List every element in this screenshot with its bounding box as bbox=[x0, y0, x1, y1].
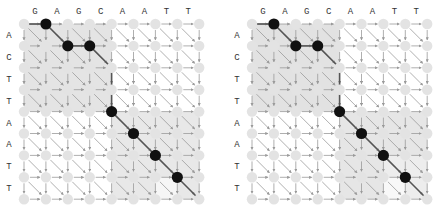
top-sequence-letter: A bbox=[370, 7, 376, 17]
grid-node bbox=[291, 194, 301, 204]
top-sequence-letter: A bbox=[282, 7, 288, 17]
grid-node bbox=[128, 63, 138, 73]
grid-node bbox=[63, 150, 73, 160]
grid-node bbox=[172, 106, 182, 116]
grid-node bbox=[400, 19, 410, 29]
alignment-graph-right: GAGCAATTACTTAATT bbox=[228, 0, 439, 219]
grid-node bbox=[269, 172, 279, 182]
grid-node bbox=[194, 85, 204, 95]
path-node bbox=[150, 150, 161, 161]
grid-node bbox=[334, 19, 344, 29]
grid-node bbox=[150, 128, 160, 138]
grid-node bbox=[194, 63, 204, 73]
grid-node bbox=[334, 128, 344, 138]
grid-node bbox=[63, 19, 73, 29]
grid-node bbox=[41, 85, 51, 95]
grid-node bbox=[63, 63, 73, 73]
grid-node bbox=[150, 85, 160, 95]
path-node bbox=[378, 150, 389, 161]
grid-node bbox=[334, 150, 344, 160]
grid-node bbox=[19, 85, 29, 95]
grid-node bbox=[19, 194, 29, 204]
grid-node bbox=[378, 85, 388, 95]
top-sequence-letter: A bbox=[142, 7, 148, 17]
path-node bbox=[62, 40, 73, 51]
path-node bbox=[312, 40, 323, 51]
grid-node bbox=[422, 41, 432, 51]
top-sequence-letter: A bbox=[54, 7, 60, 17]
grid-node bbox=[356, 172, 366, 182]
grid-node bbox=[85, 128, 95, 138]
grid-node bbox=[378, 172, 388, 182]
grid-node bbox=[172, 150, 182, 160]
grid-node bbox=[291, 172, 301, 182]
grid-node bbox=[378, 106, 388, 116]
grid-node bbox=[106, 63, 116, 73]
grid-node bbox=[19, 63, 29, 73]
grid-node bbox=[63, 194, 73, 204]
grid-node bbox=[313, 106, 323, 116]
grid-node bbox=[422, 194, 432, 204]
grid-node bbox=[41, 172, 51, 182]
grid-node bbox=[85, 172, 95, 182]
grid-node bbox=[334, 63, 344, 73]
grid-node bbox=[400, 63, 410, 73]
left-sequence-letter: A bbox=[234, 140, 240, 150]
grid-node bbox=[106, 172, 116, 182]
alignment-grid-right: GAGCAATTACTTAATT bbox=[228, 0, 439, 219]
grid-node bbox=[85, 85, 95, 95]
grid-node bbox=[269, 150, 279, 160]
grid-node bbox=[172, 19, 182, 29]
top-sequence-letter: T bbox=[392, 7, 398, 17]
grid-node bbox=[19, 150, 29, 160]
grid-node bbox=[400, 194, 410, 204]
top-sequence-letter: C bbox=[98, 7, 104, 17]
left-sequence-letter: A bbox=[234, 31, 240, 41]
grid-node bbox=[150, 19, 160, 29]
grid-node bbox=[172, 41, 182, 51]
grid-node bbox=[172, 194, 182, 204]
grid-node bbox=[400, 106, 410, 116]
grid-node bbox=[247, 194, 257, 204]
path-node bbox=[84, 40, 95, 51]
grid-node bbox=[269, 128, 279, 138]
grid-node bbox=[291, 128, 301, 138]
grid-node bbox=[400, 128, 410, 138]
grid-node bbox=[334, 41, 344, 51]
top-sequence-letter: A bbox=[120, 7, 126, 17]
grid-node bbox=[19, 172, 29, 182]
grid-node bbox=[19, 41, 29, 51]
left-sequence-letter: T bbox=[234, 75, 240, 85]
grid-node bbox=[172, 63, 182, 73]
path-node bbox=[400, 172, 411, 183]
grid-node bbox=[422, 172, 432, 182]
grid-node bbox=[313, 128, 323, 138]
grid-node bbox=[41, 150, 51, 160]
grid-node bbox=[247, 106, 257, 116]
grid-node bbox=[422, 63, 432, 73]
grid-node bbox=[356, 194, 366, 204]
grid-node bbox=[334, 194, 344, 204]
left-sequence-letter: T bbox=[6, 184, 12, 194]
grid-node bbox=[291, 150, 301, 160]
grid-node bbox=[356, 41, 366, 51]
grid-node bbox=[247, 150, 257, 160]
grid-node bbox=[291, 63, 301, 73]
grid-node bbox=[269, 85, 279, 95]
grid-node bbox=[378, 41, 388, 51]
grid-node bbox=[41, 128, 51, 138]
grid-node bbox=[422, 19, 432, 29]
left-sequence-letter: T bbox=[234, 97, 240, 107]
top-sequence-letter: A bbox=[348, 7, 354, 17]
alignment-grid-left: GAGCAATTACTTAATT bbox=[0, 0, 220, 219]
top-sequence-letter: C bbox=[326, 7, 332, 17]
grid-node bbox=[194, 128, 204, 138]
grid-node bbox=[194, 106, 204, 116]
top-sequence-letter: T bbox=[186, 7, 192, 17]
left-sequence-letter: A bbox=[6, 140, 12, 150]
grid-node bbox=[19, 19, 29, 29]
grid-node bbox=[194, 194, 204, 204]
grid-node bbox=[422, 150, 432, 160]
grid-node bbox=[128, 19, 138, 29]
grid-node bbox=[356, 106, 366, 116]
